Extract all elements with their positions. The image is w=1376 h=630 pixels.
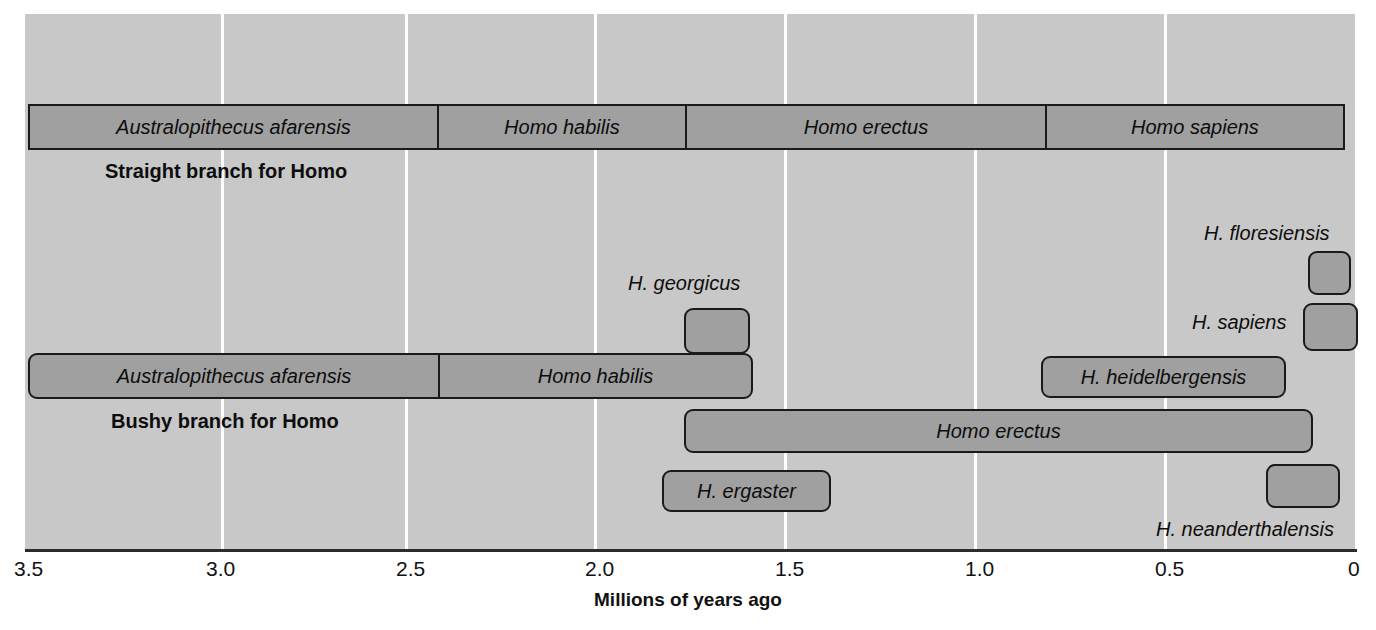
tick-label-3.0: 3.0 [206, 557, 235, 581]
x-axis-line [25, 549, 1357, 552]
bar-label: Homo habilis [538, 365, 654, 388]
box-h-sapiens-bushy[interactable] [1303, 303, 1358, 351]
bushy-segment-homo-habilis[interactable]: Homo habilis [438, 355, 751, 397]
tick-label-0.5: 0.5 [1155, 557, 1184, 581]
bar-label: Australopithecus afarensis [117, 365, 352, 388]
gridline-2.0 [594, 14, 597, 550]
tick-label-0: 0 [1348, 557, 1360, 581]
label-h-georgicus: H. georgicus [628, 272, 740, 295]
box-h-floresiensis[interactable] [1308, 251, 1351, 295]
bar-label: Australopithecus afarensis [116, 116, 351, 139]
bar-label: H. heidelbergensis [1081, 366, 1247, 389]
tick-label-1.5: 1.5 [775, 557, 804, 581]
box-h-heidelbergensis[interactable]: H. heidelbergensis [1041, 356, 1286, 398]
bushy-segment-australopithecus-afarensis[interactable]: Australopithecus afarensis [30, 355, 438, 397]
tick-label-2.0: 2.0 [585, 557, 614, 581]
tick-label-2.5: 2.5 [396, 557, 425, 581]
bar-label: H. ergaster [697, 480, 796, 503]
label-h-sapiens-bushy: H. sapiens [1192, 311, 1287, 334]
straight-segment-homo-habilis[interactable]: Homo habilis [437, 106, 685, 148]
box-homo-erectus-bushy[interactable]: Homo erectus [684, 409, 1313, 453]
axis-title: Millions of years ago [0, 589, 1376, 611]
straight-segment-australopithecus-afarensis[interactable]: Australopithecus afarensis [30, 106, 437, 148]
bar-label: Homo sapiens [1131, 116, 1259, 139]
tick-label-1.0: 1.0 [965, 557, 994, 581]
gridline-3.0 [221, 14, 224, 550]
box-h-georgicus[interactable] [684, 308, 750, 354]
bar-label: Homo erectus [804, 116, 929, 139]
bushy-branch-strip: Australopithecus afarensis Homo habilis [28, 353, 753, 399]
straight-branch-strip: Australopithecus afarensis Homo habilis … [28, 104, 1345, 150]
hominin-timeline-figure: Australopithecus afarensis Homo habilis … [0, 0, 1376, 630]
bushy-branch-caption: Bushy branch for Homo [111, 410, 339, 433]
gridline-0.5 [1164, 14, 1167, 550]
label-h-floresiensis: H. floresiensis [1204, 222, 1330, 245]
straight-branch-caption: Straight branch for Homo [105, 160, 347, 183]
box-h-neanderthalensis[interactable] [1266, 464, 1340, 508]
straight-segment-homo-erectus[interactable]: Homo erectus [685, 106, 1045, 148]
label-h-neanderthalensis: H. neanderthalensis [1156, 518, 1334, 541]
gridline-2.5 [405, 14, 408, 550]
bar-label: Homo habilis [504, 116, 620, 139]
box-h-ergaster[interactable]: H. ergaster [662, 470, 831, 512]
tick-label-3.5: 3.5 [14, 557, 43, 581]
straight-segment-homo-sapiens[interactable]: Homo sapiens [1045, 106, 1343, 148]
bar-label: Homo erectus [936, 420, 1061, 443]
gridline-1.0 [974, 14, 977, 550]
